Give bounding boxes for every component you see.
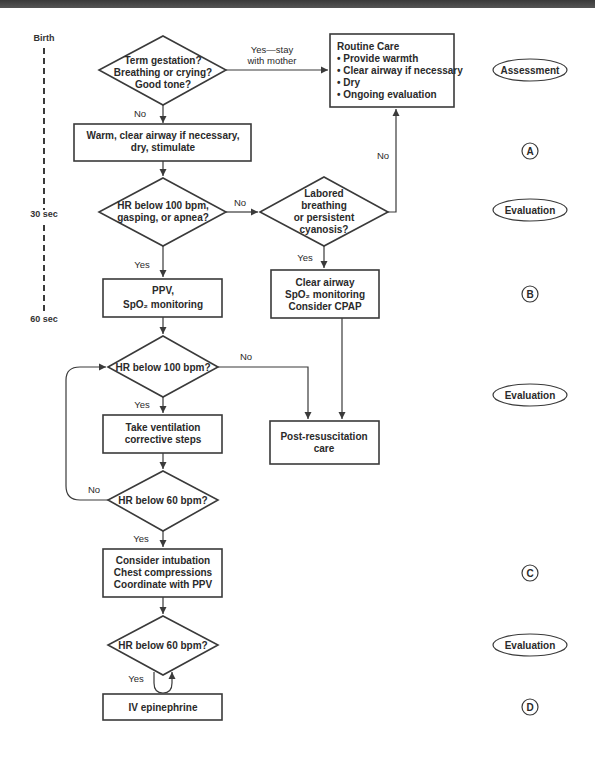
svg-text:gasping, or apnea?: gasping, or apnea?: [117, 212, 209, 223]
edge-label-no: No: [377, 150, 389, 161]
decision-hr-below-60: HR below 60 bpm?: [108, 471, 218, 531]
stage-b: B: [522, 286, 538, 302]
svg-text:Evaluation: Evaluation: [505, 390, 556, 401]
iv-epinephrine-box: IV epinephrine: [103, 694, 222, 720]
svg-text:HR below 100 bpm,: HR below 100 bpm,: [117, 200, 209, 211]
decision-hr-below-100-gasping: HR below 100 bpm, gasping, or apnea?: [99, 178, 226, 246]
svg-text:dry, stimulate: dry, stimulate: [131, 142, 196, 153]
svg-text:A: A: [526, 146, 533, 157]
svg-text:HR below 60 bpm?: HR below 60 bpm?: [118, 495, 207, 506]
svg-text:Consider CPAP: Consider CPAP: [288, 301, 361, 312]
svg-text:Assessment: Assessment: [501, 65, 561, 76]
stage-d: D: [522, 699, 538, 715]
svg-text:Chest compressions: Chest compressions: [114, 567, 213, 578]
edge-label-with-mother: with mother: [246, 55, 296, 66]
stage-evaluation-3: Evaluation: [493, 634, 567, 656]
svg-text:Consider intubation: Consider intubation: [116, 555, 210, 566]
timeline-30sec: 30 sec: [30, 209, 58, 219]
edge-label-yes: Yes: [133, 533, 149, 544]
edge-label-no: No: [88, 484, 100, 495]
timeline: Birth 30 sec 60 sec: [30, 33, 58, 324]
svg-text:SpO₂ monitoring: SpO₂ monitoring: [285, 289, 365, 300]
resuscitation-flowchart: Birth 30 sec 60 sec Term gestation? Brea…: [0, 0, 595, 758]
edge-label-yes: Yes: [134, 259, 150, 270]
svg-text:• Ongoing evaluation: • Ongoing evaluation: [337, 89, 437, 100]
svg-text:SpO₂ monitoring: SpO₂ monitoring: [123, 299, 203, 310]
svg-text:• Dry: • Dry: [337, 77, 360, 88]
svg-text:Coordinate with PPV: Coordinate with PPV: [114, 579, 213, 590]
svg-text:• Clear airway if necessary: • Clear airway if necessary: [337, 65, 463, 76]
decision-hr-below-100: HR below 100 bpm?: [108, 336, 218, 397]
ppv-box: PPV, SpO₂ monitoring: [103, 279, 222, 317]
decision-hr-below-60-second: HR below 60 bpm?: [108, 616, 218, 675]
ventilation-corrective-box: Take ventilation corrective steps: [103, 415, 222, 453]
svg-text:Labored: Labored: [304, 188, 343, 199]
svg-text:PPV,: PPV,: [152, 285, 174, 296]
svg-text:B: B: [526, 289, 533, 300]
svg-text:Breathing or crying?: Breathing or crying?: [114, 67, 212, 78]
svg-text:IV epinephrine: IV epinephrine: [129, 702, 198, 713]
stage-evaluation-1: Evaluation: [493, 199, 567, 221]
stage-evaluation-2: Evaluation: [493, 384, 567, 406]
decision-labored-breathing: Labored breathing or persistent cyanosis…: [260, 177, 388, 246]
warm-clear-airway-box: Warm, clear airway if necessary, dry, st…: [74, 124, 251, 161]
svg-text:Term gestation?: Term gestation?: [124, 55, 201, 66]
svg-text:Take ventilation: Take ventilation: [126, 422, 201, 433]
svg-text:Good tone?: Good tone?: [135, 79, 191, 90]
svg-text:Clear airway: Clear airway: [296, 277, 355, 288]
stage-a: A: [522, 143, 538, 159]
timeline-birth: Birth: [34, 33, 55, 43]
timeline-60sec: 60 sec: [30, 314, 58, 324]
post-resuscitation-box: Post-resuscitation care: [270, 421, 379, 464]
edge-label-yes: Yes: [134, 399, 150, 410]
svg-text:Evaluation: Evaluation: [505, 640, 556, 651]
svg-text:HR below 60 bpm?: HR below 60 bpm?: [118, 640, 207, 651]
svg-text:C: C: [526, 568, 533, 579]
svg-text:or persistent: or persistent: [294, 212, 355, 223]
edge-label-yes: Yes: [297, 252, 313, 263]
decision-term-gestation: Term gestation? Breathing or crying? Goo…: [99, 36, 226, 105]
edge-label-no: No: [234, 197, 246, 208]
intubation-compressions-box: Consider intubation Chest compressions C…: [103, 549, 222, 597]
svg-text:Warm, clear airway if necessar: Warm, clear airway if necessary,: [87, 130, 240, 141]
svg-text:breathing: breathing: [301, 200, 347, 211]
svg-text:HR below 100 bpm?: HR below 100 bpm?: [115, 362, 210, 373]
edge-label-yes: Yes: [128, 673, 144, 684]
stage-c: C: [522, 565, 538, 581]
svg-text:cyanosis?: cyanosis?: [300, 224, 349, 235]
clear-airway-box: Clear airway SpO₂ monitoring Consider CP…: [271, 270, 379, 318]
svg-text:care: care: [314, 443, 335, 454]
svg-text:Evaluation: Evaluation: [505, 205, 556, 216]
svg-text:Post-resuscitation: Post-resuscitation: [280, 431, 367, 442]
edge-label-no: No: [240, 351, 252, 362]
edge-label-yes-stay: Yes—stay: [251, 44, 294, 55]
edge-label-no: No: [134, 108, 146, 119]
routine-care-box: Routine Care • Provide warmth • Clear ai…: [330, 34, 463, 107]
svg-text:D: D: [526, 702, 533, 713]
svg-text:• Provide warmth: • Provide warmth: [337, 53, 418, 64]
svg-text:Routine Care: Routine Care: [337, 41, 400, 52]
stage-assessment: Assessment: [493, 59, 567, 81]
svg-text:corrective steps: corrective steps: [125, 434, 202, 445]
